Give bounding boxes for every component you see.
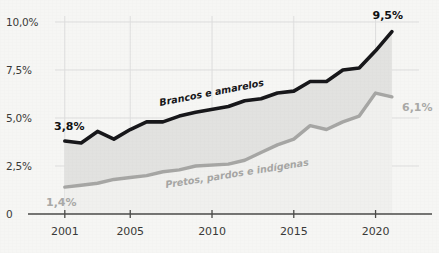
value-label-gray-end: 6,1% <box>402 101 433 114</box>
value-label-dark-start: 3,8% <box>54 120 85 133</box>
y-axis-tick-label: 7,5% <box>6 64 32 76</box>
x-axis-tick-label: 2020 <box>362 225 390 238</box>
y-axis-tick-label: 2,5% <box>6 160 32 172</box>
chart-container: 02,5%5,0%7,5%10,0% 20012005201020152020 … <box>0 0 439 253</box>
y-axis-tick-label: 0 <box>6 208 12 220</box>
x-axis-tick-label: 2010 <box>198 225 226 238</box>
x-axis-tick-label: 2005 <box>116 225 144 238</box>
x-axis-tick-label: 2001 <box>51 225 79 238</box>
value-label-dark-end: 9,5% <box>372 9 403 22</box>
x-axis-tick-label: 2015 <box>280 225 308 238</box>
line-chart: 02,5%5,0%7,5%10,0% 20012005201020152020 … <box>0 0 439 253</box>
y-axis-tick-label: 5,0% <box>6 112 32 124</box>
y-axis-tick-label: 10,0% <box>6 16 39 28</box>
value-label-gray-start: 1,4% <box>46 196 77 209</box>
